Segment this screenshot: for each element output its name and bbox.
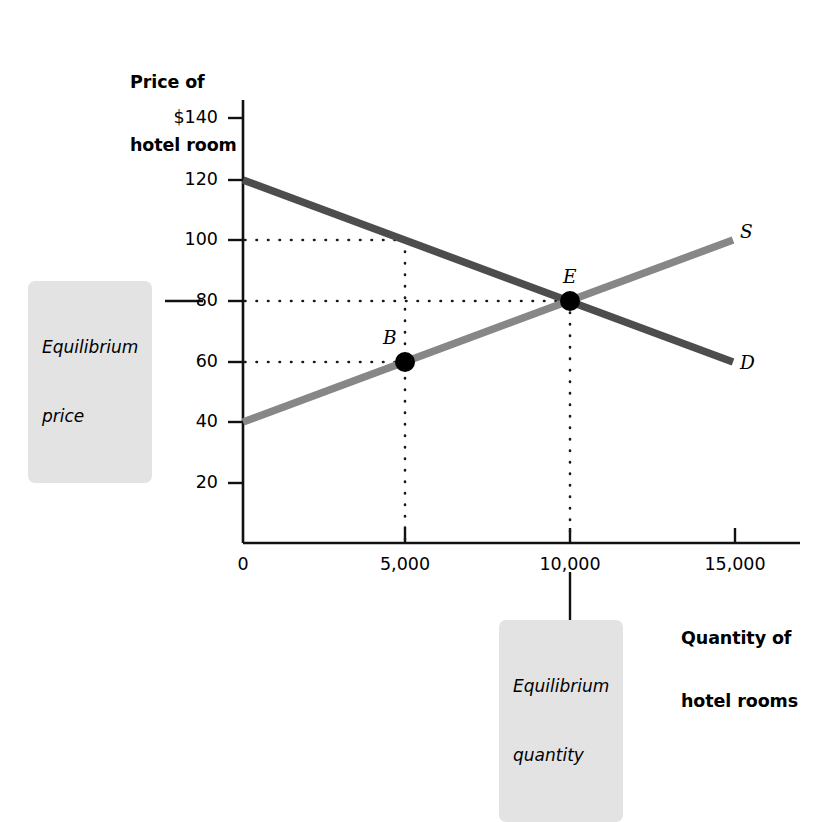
point-label-e: E: [563, 266, 577, 287]
callout-price-line2: price: [42, 405, 138, 428]
y-tick-label-140: $140: [148, 107, 218, 127]
demand-curve-label: D: [740, 352, 755, 373]
callout-price-line1: Equilibrium: [42, 336, 138, 359]
y-tick-label-80: 80: [148, 290, 218, 310]
y-axis-title-line1: Price of: [130, 72, 237, 93]
x-tick-label-10000: 10,000: [520, 554, 620, 574]
y-tick-label-20: 20: [148, 472, 218, 492]
y-tick-label-40: 40: [148, 411, 218, 431]
x-tick-label-0: 0: [193, 554, 293, 574]
y-tick-label-120: 120: [148, 169, 218, 189]
x-axis-title-line2: hotel rooms: [681, 691, 798, 712]
callout-quantity-line2: quantity: [513, 744, 609, 767]
callout-equilibrium-quantity: Equilibrium quantity: [499, 620, 623, 822]
y-axis-title-line2: hotel room: [130, 135, 237, 156]
y-tick-label-60: 60: [148, 351, 218, 371]
data-point-e: [560, 291, 580, 311]
x-axis-title: Quantity of hotel rooms: [681, 586, 798, 754]
data-point-b: [395, 352, 415, 372]
y-tick-label-100: 100: [148, 229, 218, 249]
x-tick-label-15000: 15,000: [685, 554, 785, 574]
x-tick-label-5000: 5,000: [355, 554, 455, 574]
x-axis-title-line1: Quantity of: [681, 628, 798, 649]
point-label-b: B: [383, 327, 397, 348]
callout-quantity-line1: Equilibrium: [513, 675, 609, 698]
supply-curve-label: S: [740, 221, 753, 242]
callout-equilibrium-price: Equilibrium price: [28, 281, 152, 483]
